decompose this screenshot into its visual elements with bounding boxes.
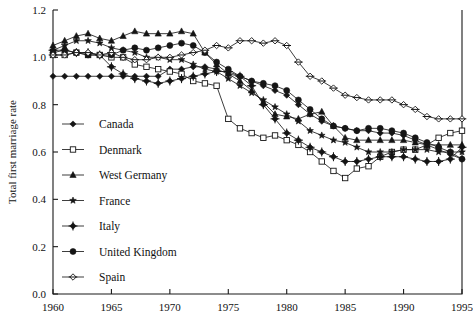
data-point-filled-circle bbox=[70, 249, 76, 255]
data-point-star bbox=[307, 127, 314, 133]
data-point-open-square bbox=[366, 164, 371, 169]
chart-canvas: 0.00.20.40.60.81.01.2 196019651970197519… bbox=[0, 0, 473, 329]
x-tick-label: 1985 bbox=[334, 301, 357, 313]
y-tick-label: 0.8 bbox=[32, 99, 46, 111]
data-point-cross-diamond bbox=[154, 79, 163, 88]
data-point-filled-circle bbox=[225, 66, 231, 72]
data-point-cross-diamond bbox=[364, 155, 373, 164]
legend-label: United Kingdom bbox=[99, 246, 177, 259]
legend-label: Italy bbox=[99, 220, 120, 233]
data-point-filled-circle bbox=[260, 80, 266, 86]
data-point-cross-diamond bbox=[200, 69, 209, 78]
data-point-open-square bbox=[354, 166, 359, 171]
data-point-filled-circle bbox=[190, 43, 196, 49]
data-point-filled-circle bbox=[459, 156, 465, 162]
chart-legend: CanadaDenmarkWest GermanyFranceItalyUnit… bbox=[62, 118, 177, 284]
data-point-open-square bbox=[436, 135, 441, 140]
data-point-open-square bbox=[167, 69, 172, 74]
legend-label: Spain bbox=[99, 271, 125, 284]
data-point-open-square bbox=[331, 168, 336, 173]
data-point-cross-diamond bbox=[411, 155, 420, 164]
data-point-cross-diamond bbox=[434, 157, 443, 166]
legend-item-spain[interactable]: Spain bbox=[62, 271, 125, 284]
data-point-filled-circle bbox=[214, 59, 220, 65]
data-point-filled-circle bbox=[167, 43, 173, 49]
series-spain bbox=[49, 38, 467, 123]
data-point-filled-diamond bbox=[85, 73, 91, 79]
data-point-cross-diamond bbox=[119, 69, 128, 78]
data-point-cross-diamond bbox=[399, 152, 408, 161]
legend-label: West Germany bbox=[99, 169, 168, 182]
data-point-open-diamond bbox=[212, 42, 221, 48]
data-point-open-square bbox=[70, 147, 75, 152]
data-point-open-square bbox=[272, 133, 277, 138]
data-point-open-diamond bbox=[154, 54, 163, 60]
data-point-filled-triangle bbox=[155, 30, 161, 36]
x-tick-label: 1965 bbox=[100, 301, 123, 313]
data-point-star bbox=[354, 144, 361, 150]
data-point-filled-circle bbox=[307, 106, 313, 112]
data-point-filled-circle bbox=[377, 125, 383, 131]
data-point-cross-diamond bbox=[329, 152, 338, 161]
data-point-open-square bbox=[249, 130, 254, 135]
data-point-filled-circle bbox=[330, 123, 336, 129]
data-point-open-square bbox=[261, 135, 266, 140]
x-tick-label: 1970 bbox=[159, 301, 182, 313]
data-point-star bbox=[85, 37, 92, 43]
y-tick-label: 0.6 bbox=[32, 146, 46, 158]
x-tick-label: 1990 bbox=[393, 301, 416, 313]
data-point-star bbox=[318, 132, 325, 138]
legend-item-france[interactable]: France bbox=[62, 195, 130, 207]
data-point-filled-diamond bbox=[97, 73, 103, 79]
data-point-filled-triangle bbox=[389, 137, 395, 143]
data-point-open-diamond bbox=[446, 116, 455, 122]
data-point-open-diamond bbox=[376, 97, 385, 103]
data-point-filled-diamond bbox=[70, 121, 76, 127]
legend-item-denmark[interactable]: Denmark bbox=[62, 144, 142, 156]
data-point-cross-diamond bbox=[422, 157, 431, 166]
x-tick-label: 1960 bbox=[42, 301, 65, 313]
data-point-filled-circle bbox=[319, 116, 325, 122]
series-line bbox=[53, 53, 462, 178]
data-point-star bbox=[330, 137, 337, 143]
data-point-filled-triangle bbox=[132, 28, 138, 34]
data-point-open-square bbox=[342, 175, 347, 180]
data-point-filled-circle bbox=[354, 128, 360, 134]
y-tick-label: 0.2 bbox=[32, 241, 46, 253]
data-point-open-square bbox=[144, 64, 149, 69]
data-point-filled-circle bbox=[389, 128, 395, 134]
legend-item-italy[interactable]: Italy bbox=[62, 220, 120, 233]
legend-item-canada[interactable]: Canada bbox=[62, 118, 133, 130]
data-point-cross-diamond bbox=[317, 148, 326, 157]
data-point-filled-diamond bbox=[155, 73, 161, 79]
data-point-filled-triangle bbox=[400, 137, 406, 143]
legend-label: Denmark bbox=[99, 144, 142, 156]
y-tick-label: 1.2 bbox=[32, 4, 46, 16]
data-point-open-diamond bbox=[364, 97, 373, 103]
data-point-filled-diamond bbox=[108, 73, 114, 79]
data-point-open-diamond bbox=[353, 94, 362, 100]
data-point-filled-circle bbox=[295, 97, 301, 103]
data-point-filled-triangle bbox=[319, 108, 325, 114]
data-point-filled-circle bbox=[120, 47, 126, 53]
series-denmark bbox=[50, 50, 464, 181]
series-group bbox=[49, 28, 467, 181]
data-point-open-diamond bbox=[388, 97, 397, 103]
data-point-filled-circle bbox=[342, 125, 348, 131]
data-point-open-square bbox=[284, 137, 289, 142]
data-point-open-square bbox=[202, 81, 207, 86]
marriage-rate-chart: 0.00.20.40.60.81.01.2 196019651970197519… bbox=[0, 0, 473, 329]
legend-item-west-germany[interactable]: West Germany bbox=[62, 169, 168, 182]
data-point-filled-circle bbox=[412, 135, 418, 141]
data-point-cross-diamond bbox=[282, 129, 291, 138]
data-point-cross-diamond bbox=[142, 77, 151, 86]
data-point-open-square bbox=[155, 66, 160, 71]
data-point-open-diamond bbox=[271, 38, 280, 44]
data-point-filled-diamond bbox=[73, 73, 79, 79]
data-point-filled-circle bbox=[272, 83, 278, 89]
data-point-filled-triangle bbox=[85, 30, 91, 36]
x-tick-label: 1980 bbox=[276, 301, 299, 313]
legend-item-united-kingdom[interactable]: United Kingdom bbox=[62, 246, 177, 259]
data-point-open-square bbox=[237, 126, 242, 131]
y-tick-label: 0.4 bbox=[32, 193, 46, 205]
